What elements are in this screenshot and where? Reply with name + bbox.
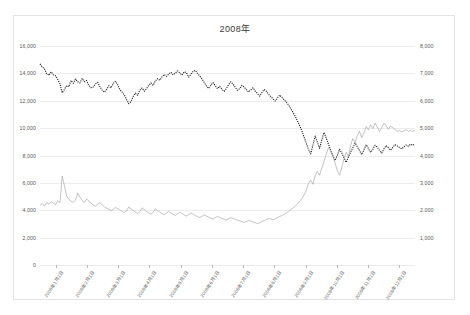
x-axis-tick bbox=[118, 265, 119, 268]
y-axis-right-tick: 6,000 bbox=[420, 98, 433, 104]
x-axis-tick bbox=[87, 265, 88, 268]
y-axis-left-tick: 4,000 bbox=[23, 207, 36, 213]
y-axis-left-tick: 6,000 bbox=[23, 180, 36, 186]
y-axis-left-tick: 2,000 bbox=[23, 235, 36, 241]
x-axis-tick bbox=[337, 265, 338, 268]
y-axis-left-tick: 0 bbox=[33, 262, 36, 268]
series-layer bbox=[40, 46, 415, 265]
x-axis-tick bbox=[149, 265, 150, 268]
y-axis-right-tick: 7,000 bbox=[420, 70, 433, 76]
x-axis-tick bbox=[274, 265, 275, 268]
series-line-upper-index bbox=[40, 64, 415, 162]
x-axis-tick bbox=[306, 265, 307, 268]
x-axis-tick bbox=[212, 265, 213, 268]
y-axis-left-tick: 12,000 bbox=[20, 98, 36, 104]
y-axis-left-tick: 14,000 bbox=[20, 70, 36, 76]
y-axis-right-tick: 3,000 bbox=[420, 180, 433, 186]
y-axis-right-tick: 8,000 bbox=[420, 43, 433, 49]
y-axis-right-tick: 1,000 bbox=[420, 235, 433, 241]
x-axis-tick bbox=[399, 265, 400, 268]
y-axis-right-tick: 4,000 bbox=[420, 153, 433, 159]
series-line-lower-index bbox=[40, 123, 415, 223]
chart-title: 2008年 bbox=[0, 22, 470, 35]
x-axis-tick bbox=[181, 265, 182, 268]
gridline bbox=[40, 265, 415, 266]
y-axis-left-tick: 8,000 bbox=[23, 153, 36, 159]
y-axis-right-tick: 2,000 bbox=[420, 207, 433, 213]
x-axis-tick bbox=[368, 265, 369, 268]
chart-screenshot: 2008年 02,0004,0006,0008,00010,00012,0001… bbox=[0, 0, 470, 315]
x-axis-tick bbox=[243, 265, 244, 268]
plot-area: 02,0004,0006,0008,00010,00012,00014,0001… bbox=[40, 46, 415, 265]
y-axis-right-tick: 5,000 bbox=[420, 125, 433, 131]
x-axis-tick bbox=[56, 265, 57, 268]
y-axis-left-tick: 10,000 bbox=[20, 125, 36, 131]
y-axis-left-tick: 16,000 bbox=[20, 43, 36, 49]
